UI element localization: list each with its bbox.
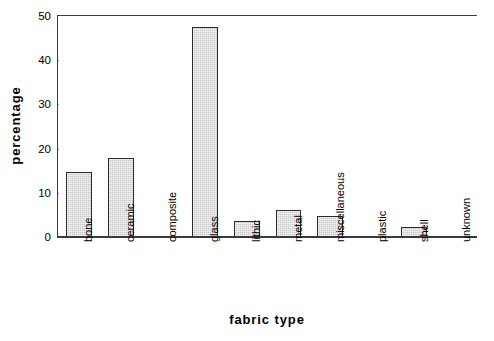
x-tick-label-ceramic: ceramic — [124, 203, 136, 242]
y-tick-label-50: 50 — [38, 10, 51, 22]
y-axis-title-text: percentage — [8, 86, 23, 164]
y-tick-label-40: 40 — [38, 54, 51, 66]
bar-slot-glass — [184, 16, 226, 237]
x-tick-slot-bone: bone — [57, 240, 99, 310]
x-tick-label-shell: shell — [418, 219, 430, 242]
bar-glass[interactable] — [192, 27, 218, 237]
bar-slot-shell — [393, 16, 435, 237]
x-tick-slot-plastic: plastic — [351, 240, 393, 310]
x-axis-line — [57, 236, 477, 238]
x-tick-label-glass: glass — [208, 216, 220, 242]
bar-series — [58, 16, 477, 237]
x-tick-slot-miscellaneous: miscellaneous — [309, 240, 351, 310]
y-tick-label-10: 10 — [38, 187, 51, 199]
x-tick-slot-ceramic: ceramic — [99, 240, 141, 310]
x-tick-label-miscellaneous: miscellaneous — [334, 172, 346, 242]
y-tick-label-20: 20 — [38, 143, 51, 155]
bar-slot-metal — [268, 16, 310, 237]
x-tick-slot-composite: composite — [141, 240, 183, 310]
x-tick-slot-metal: metal — [267, 240, 309, 310]
bar-slot-plastic — [351, 16, 393, 237]
x-tick-slot-unknown: unknown — [435, 240, 477, 310]
x-tick-slot-lithic: lithic — [225, 240, 267, 310]
x-tick-labels: bone ceramic composite glass lithic meta… — [57, 240, 477, 310]
y-tick-label-30: 30 — [38, 98, 51, 110]
x-tick-label-composite: composite — [166, 192, 178, 242]
bar-chart-figure: percentage 50 40 30 20 10 — [0, 0, 494, 341]
bar-slot-bone — [58, 16, 100, 237]
x-tick-slot-shell: shell — [393, 240, 435, 310]
bar-slot-lithic — [226, 16, 268, 237]
y-tick-label-0: 0 — [45, 231, 51, 243]
plot-inner: 50 40 30 20 10 0 — [58, 16, 477, 237]
x-tick-label-metal: metal — [292, 215, 304, 242]
x-tick-label-unknown: unknown — [460, 198, 472, 242]
x-axis-title: fabric type — [57, 312, 477, 327]
x-tick-label-lithic: lithic — [250, 220, 262, 242]
y-axis-title: percentage — [0, 0, 30, 250]
x-tick-label-plastic: plastic — [376, 211, 388, 242]
plot-area: 50 40 30 20 10 0 — [57, 15, 477, 237]
x-tick-slot-glass: glass — [183, 240, 225, 310]
x-tick-label-bone: bone — [82, 218, 94, 242]
